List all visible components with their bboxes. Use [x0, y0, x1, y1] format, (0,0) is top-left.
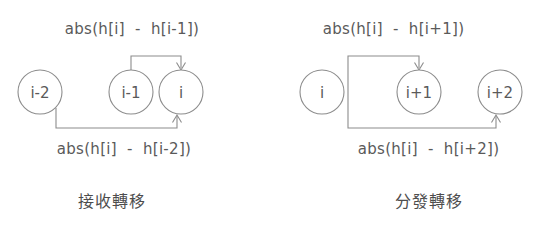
node-label: i-1: [121, 84, 140, 102]
node-i-plus-2[interactable]: i+2: [478, 70, 522, 114]
node-label: i: [179, 84, 183, 102]
node-label: i+1: [406, 84, 432, 102]
node-i[interactable]: i: [159, 70, 203, 114]
edge-i-minus-1-to-i: [131, 56, 186, 70]
node-i-plus-1[interactable]: i+1: [397, 70, 441, 114]
node-label: i-2: [30, 84, 49, 102]
panel-receive-transition: abs(h[i] - h[i-1]) i-2 i-1: [0, 0, 270, 230]
node-i-minus-1[interactable]: i-1: [109, 70, 153, 114]
edge-i-minus-2-to-i: [56, 108, 182, 128]
node-label: i: [320, 84, 324, 102]
node-label: i+2: [487, 84, 513, 102]
node-i[interactable]: i: [300, 70, 344, 114]
expression-label-bottom-right: abs(h[i] - h[i+2]): [294, 140, 539, 158]
transition-diagram-figure: abs(h[i] - h[i-1]) i-2 i-1: [0, 0, 539, 230]
expression-label-bottom-left: abs(h[i] - h[i-2]): [0, 140, 259, 158]
panel-distribute-transition: abs(h[i] - h[i+1]) i i+1: [270, 0, 539, 230]
panel-caption-distribute: 分發轉移: [294, 188, 539, 212]
panel-caption-receive: 接收轉移: [0, 188, 247, 212]
node-i-minus-2[interactable]: i-2: [18, 70, 62, 114]
